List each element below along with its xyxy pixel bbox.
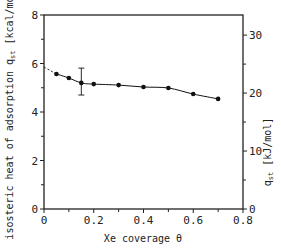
data-point-marker bbox=[191, 92, 196, 97]
plot-border bbox=[44, 15, 243, 209]
data-point-marker bbox=[91, 82, 96, 87]
y-axis-right-ticks: 0102030 bbox=[243, 29, 262, 216]
data-point-marker bbox=[166, 86, 171, 91]
x-tick-label: 0.6 bbox=[183, 214, 203, 227]
y-right-tick-label: 30 bbox=[249, 29, 262, 42]
x-axis-title: Xe coverage θ bbox=[104, 233, 182, 244]
y-left-tick-label: 4 bbox=[31, 106, 38, 119]
y-axis-right-title: qst [kJ/mol] bbox=[262, 118, 275, 187]
data-point-marker bbox=[141, 85, 146, 90]
x-tick-label: 0.2 bbox=[84, 214, 104, 227]
data-point-marker bbox=[54, 72, 59, 77]
x-tick-label: 0 bbox=[41, 214, 48, 227]
y-left-tick-label: 6 bbox=[31, 58, 38, 71]
y-right-tick-label: 0 bbox=[249, 203, 256, 216]
data-point-marker bbox=[116, 83, 121, 88]
y-right-tick-label: 20 bbox=[249, 87, 262, 100]
data-point-marker bbox=[67, 76, 72, 81]
y-axis-left-ticks: 02468 bbox=[31, 9, 44, 216]
y-right-title-sub: st bbox=[267, 172, 275, 180]
y-left-title-sub: st bbox=[9, 51, 17, 59]
data-series bbox=[44, 67, 220, 101]
y-right-title-unit: [kJ/mol] bbox=[262, 118, 273, 172]
x-axis-ticks: 00.20.40.60.8 bbox=[41, 209, 253, 227]
y-left-tick-label: 2 bbox=[31, 155, 38, 168]
y-left-tick-label: 8 bbox=[31, 9, 38, 22]
y-left-tick-label: 0 bbox=[31, 203, 38, 216]
data-point-marker bbox=[216, 97, 221, 102]
x-tick-label: 0.4 bbox=[134, 214, 154, 227]
y-axis-left-title: isosteric heat of adsorption qst [kcal/m… bbox=[4, 0, 17, 240]
y-left-title-main: isosteric heat of adsorption q bbox=[4, 59, 15, 240]
plot-frame bbox=[44, 15, 243, 209]
y-right-tick-label: 10 bbox=[249, 145, 262, 158]
chart: 00.20.40.60.8 02468 0102030 Xe coverage … bbox=[0, 0, 281, 248]
y-left-title-unit: [kcal/mol] bbox=[4, 0, 15, 51]
